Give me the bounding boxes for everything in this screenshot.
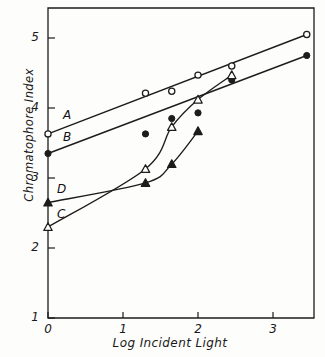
series-label-C: C [57, 207, 65, 221]
data-point-filled-circle [304, 52, 310, 58]
series-A [45, 31, 310, 137]
y-tick-label: 2 [26, 240, 44, 254]
data-point-filled-circle [45, 150, 51, 156]
data-point-open-triangle [44, 223, 52, 231]
series-C [44, 71, 236, 231]
plot-frame [48, 8, 314, 318]
y-axis-title: Chromatophore Index [22, 50, 36, 220]
data-point-open-circle [142, 90, 148, 96]
x-tick-label: 3 [264, 322, 282, 336]
data-point-open-circle [304, 31, 310, 37]
series-label-B: B [63, 130, 71, 144]
series-label-A: A [63, 108, 71, 122]
data-point-filled-circle [195, 110, 201, 116]
data-point-open-circle [229, 63, 235, 69]
series-B [45, 52, 310, 156]
data-point-filled-circle [169, 115, 175, 121]
y-tick-label: 5 [26, 30, 44, 44]
data-point-open-triangle [228, 71, 236, 79]
chart-figure: Chromatophore Index Log Incident Light 0… [0, 0, 325, 357]
data-point-open-circle [195, 72, 201, 78]
series-label-D: D [57, 182, 66, 196]
data-point-open-circle [169, 88, 175, 94]
x-tick-label: 0 [39, 322, 57, 336]
data-point-filled-triangle [194, 127, 202, 135]
y-tick-label: 3 [26, 170, 44, 184]
y-tick-label: 1 [26, 310, 44, 324]
x-tick-label: 2 [189, 322, 207, 336]
y-tick-label: 4 [26, 100, 44, 114]
data-point-filled-circle [142, 131, 148, 137]
plot-canvas [0, 0, 325, 357]
series-line-B [48, 56, 307, 154]
data-point-open-circle [45, 131, 51, 137]
x-axis-title: Log Incident Light [60, 336, 280, 350]
x-tick-label: 1 [114, 322, 132, 336]
